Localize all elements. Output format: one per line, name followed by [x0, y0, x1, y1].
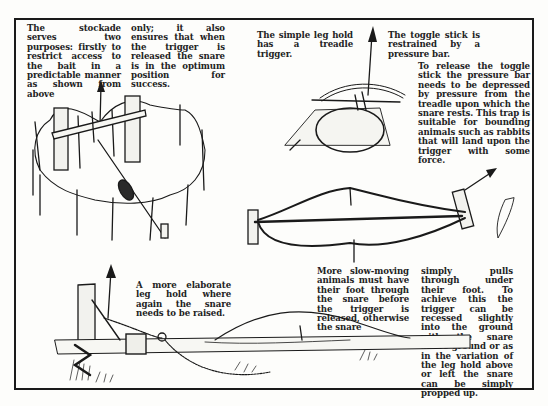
illustrations-layer: [0, 0, 548, 406]
treadle-leg-hold-illustration: [285, 26, 405, 152]
propped-snare-illustration: [248, 168, 514, 262]
elaborate-leg-hold-illustration: [55, 264, 470, 375]
stockade-snare-illustration: [33, 80, 205, 240]
grass-decoration: [70, 350, 377, 382]
